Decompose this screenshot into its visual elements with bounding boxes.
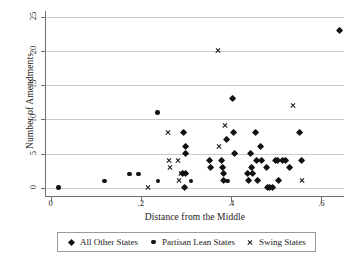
circle-marker-icon xyxy=(149,238,158,247)
y-tick-label-0: 0 xyxy=(24,183,42,191)
gridline-y-25 xyxy=(46,17,344,18)
legend-label: Swing States xyxy=(259,237,306,247)
y-tick-mark-5 xyxy=(41,154,46,155)
legend-label: All Other States xyxy=(80,237,138,247)
y-tick-mark-20 xyxy=(41,51,46,52)
y-tick-label-10: 10 xyxy=(24,114,42,122)
y-tick-label-20: 20 xyxy=(24,46,42,54)
y-tick-label-15: 15 xyxy=(24,80,42,88)
x-tick-mark-.6 xyxy=(321,197,322,202)
legend-label: Partisan Lean States xyxy=(162,237,235,247)
gridline-y-10 xyxy=(46,119,344,120)
y-tick-label-5: 5 xyxy=(24,149,42,157)
scatter-plot-figure: Number of Amendments 0510152025 0.2.4.6 … xyxy=(0,0,354,262)
x-tick-mark-.4 xyxy=(231,197,232,202)
chart-legend: All Other StatesPartisan Lean StatesSwin… xyxy=(57,232,316,252)
x-tick-mark-.2 xyxy=(141,197,142,202)
y-tick-mark-0 xyxy=(41,188,46,189)
x-axis-line xyxy=(45,196,344,197)
legend-entry-0: All Other States xyxy=(67,237,138,247)
plot-area xyxy=(46,11,344,196)
legend-entry-2: Swing States xyxy=(246,237,306,247)
y-axis-tick-labels: 0510152025 xyxy=(22,0,42,262)
legend-entry-1: Partisan Lean States xyxy=(149,237,235,247)
y-tick-mark-10 xyxy=(41,119,46,120)
x-axis-label: Distance from the Middle xyxy=(46,212,344,222)
cross-marker-icon xyxy=(246,238,255,247)
x-tick-mark-0 xyxy=(51,197,52,202)
y-tick-mark-25 xyxy=(41,17,46,18)
diamond-marker-icon xyxy=(67,238,76,247)
gridline-y-5 xyxy=(46,154,344,155)
gridline-y-15 xyxy=(46,85,344,86)
gridline-y-20 xyxy=(46,51,344,52)
y-tick-label-25: 25 xyxy=(24,12,42,20)
gridline-y-0 xyxy=(46,188,344,189)
y-tick-mark-15 xyxy=(41,85,46,86)
